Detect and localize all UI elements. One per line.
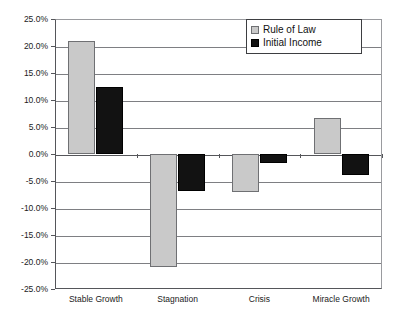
y-axis-tick-label: -15.0% bbox=[0, 235, 48, 236]
legend-item-initial-income: Initial Income bbox=[251, 36, 357, 49]
bar-stagnation-rule-of-law bbox=[150, 154, 177, 267]
y-axis-tick bbox=[51, 46, 55, 47]
x-axis-category-label: Crisis bbox=[219, 294, 301, 304]
chart-legend: Rule of Law Initial Income bbox=[246, 19, 362, 54]
bar-crisis-rule-of-law bbox=[232, 154, 259, 192]
legend-item-rule-of-law: Rule of Law bbox=[251, 23, 357, 36]
y-axis-tick bbox=[51, 73, 55, 74]
legend-swatch-icon-rule-of-law bbox=[251, 26, 259, 34]
y-axis-tick-label: 5.0% bbox=[0, 127, 48, 128]
x-axis-tick bbox=[300, 154, 301, 158]
legend-label-rule-of-law: Rule of Law bbox=[263, 24, 316, 36]
bar-stable-growth-initial-income bbox=[96, 87, 123, 154]
y-axis-tick-label: 15.0% bbox=[0, 73, 48, 74]
y-axis-tick-label: 20.0% bbox=[0, 46, 48, 47]
x-axis-tick bbox=[219, 154, 220, 158]
y-axis-tick bbox=[51, 235, 55, 236]
gridline bbox=[56, 263, 381, 264]
y-axis-tick-label: 0.0% bbox=[0, 154, 48, 155]
y-axis-tick bbox=[51, 19, 55, 20]
x-axis-category-label: Miracle Growth bbox=[300, 294, 382, 304]
bar-miracle-growth-initial-income bbox=[342, 154, 369, 175]
bar-stable-growth-rule-of-law bbox=[68, 41, 95, 154]
y-axis-tick bbox=[51, 208, 55, 209]
y-axis-tick bbox=[51, 154, 55, 155]
y-axis-tick bbox=[51, 262, 55, 263]
x-axis-tick bbox=[382, 154, 383, 158]
bar-crisis-initial-income bbox=[260, 154, 287, 163]
gridline bbox=[56, 74, 381, 75]
y-axis-tick bbox=[51, 100, 55, 101]
y-axis-tick-label: -20.0% bbox=[0, 262, 48, 263]
y-axis-tick-label: 25.0% bbox=[0, 19, 48, 20]
y-axis-tick-label: -10.0% bbox=[0, 208, 48, 209]
y-axis-tick-label: -25.0% bbox=[0, 289, 48, 290]
legend-label-initial-income: Initial Income bbox=[263, 37, 322, 49]
y-axis-tick-label: -5.0% bbox=[0, 181, 48, 182]
gridline bbox=[56, 236, 381, 237]
legend-swatch-icon-initial-income bbox=[251, 39, 259, 47]
bar-stagnation-initial-income bbox=[178, 154, 205, 191]
y-axis-tick-label: 10.0% bbox=[0, 100, 48, 101]
gridline bbox=[56, 182, 381, 183]
bar-chart: 25.0%20.0%15.0%10.0%5.0%0.0%-5.0%-10.0%-… bbox=[0, 0, 407, 316]
y-axis-tick bbox=[51, 289, 55, 290]
x-axis-category-label: Stable Growth bbox=[55, 294, 137, 304]
y-axis-tick bbox=[51, 181, 55, 182]
chart-title bbox=[0, 0, 407, 4]
x-axis-tick bbox=[137, 154, 138, 158]
x-axis-category-label: Stagnation bbox=[137, 294, 219, 304]
bar-miracle-growth-rule-of-law bbox=[314, 118, 341, 154]
y-axis-tick bbox=[51, 127, 55, 128]
gridline bbox=[56, 209, 381, 210]
